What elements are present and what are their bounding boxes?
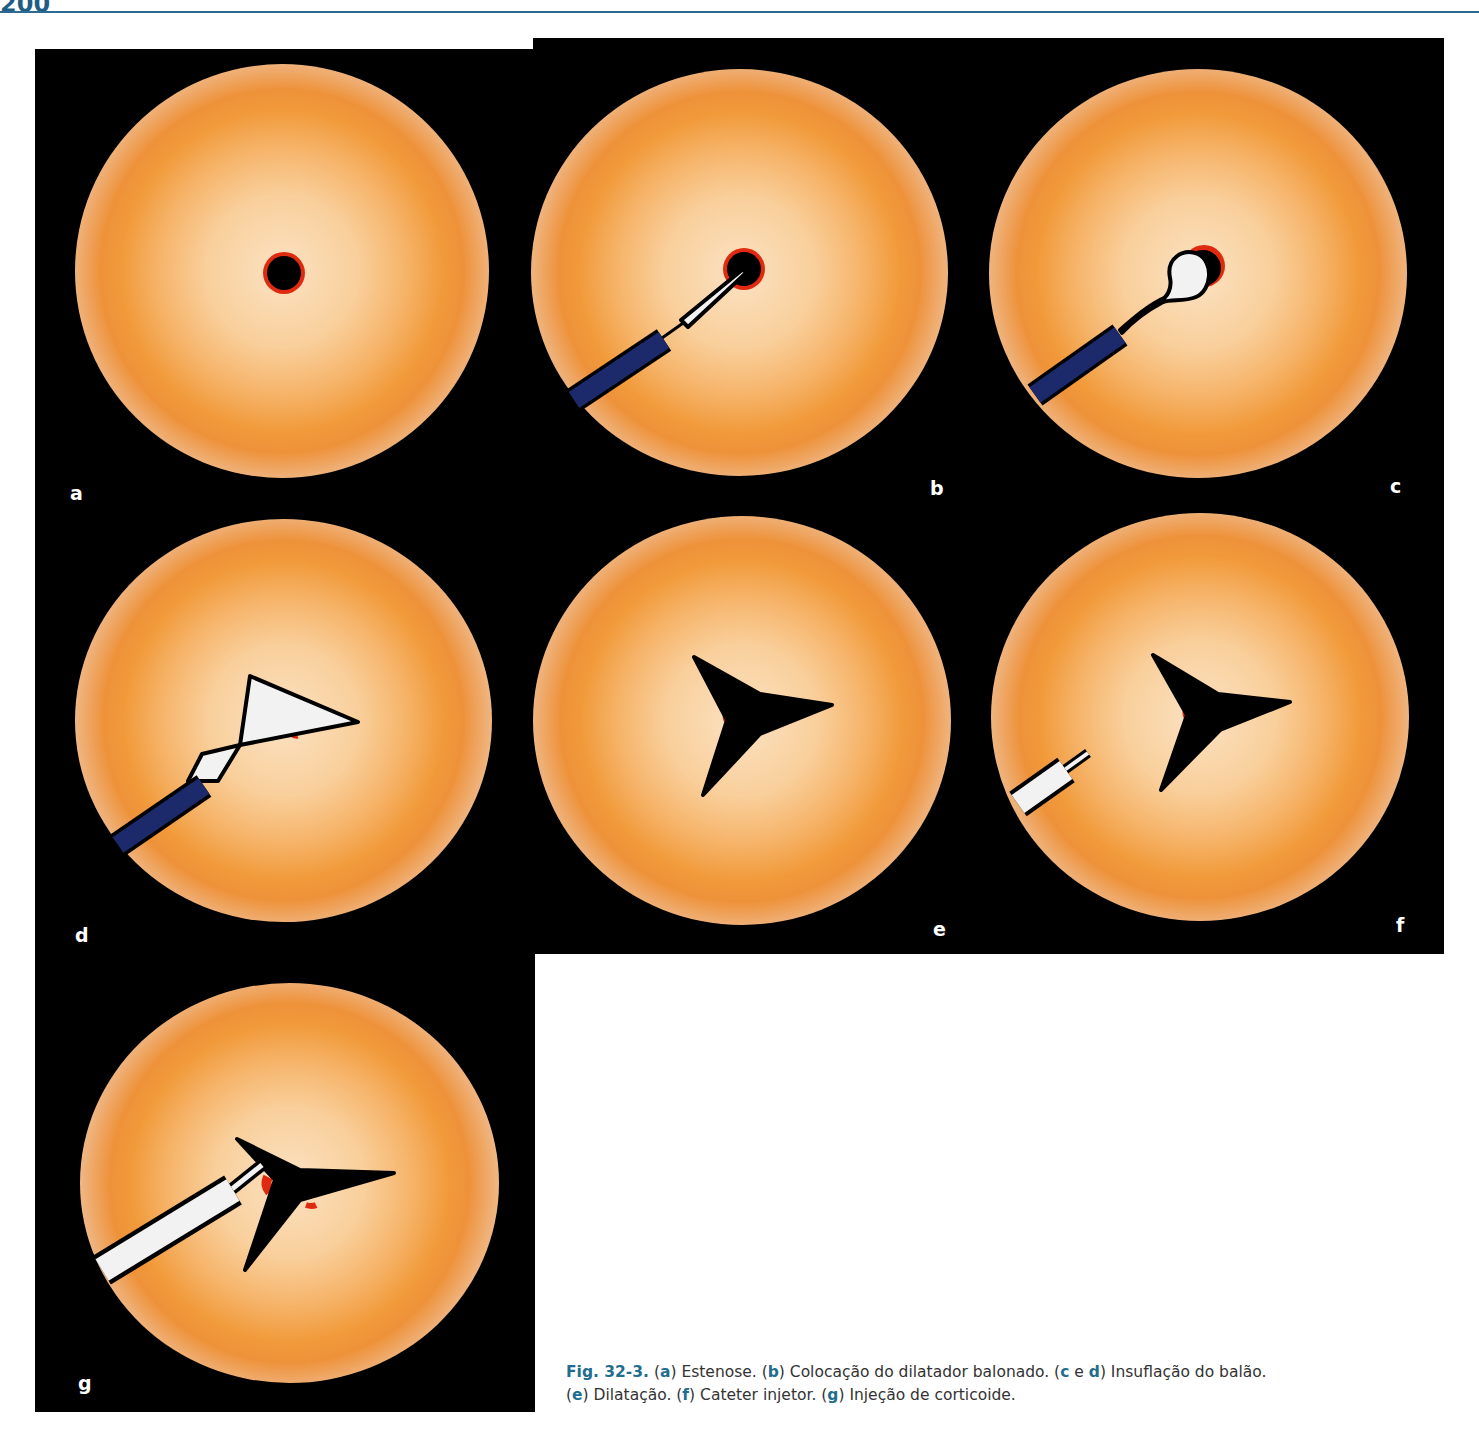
- caption-paren: ): [583, 1386, 594, 1404]
- caption-letter-c: c: [1060, 1363, 1069, 1381]
- caption-letter-d: d: [1089, 1363, 1100, 1381]
- figure: a b c: [0, 0, 1479, 1451]
- caption-conjunction: e: [1069, 1363, 1088, 1381]
- caption-paren: ): [1100, 1363, 1111, 1381]
- corticoid-injection-icon: [0, 0, 1479, 1451]
- caption-paren: (: [816, 1386, 827, 1404]
- caption-paren: (: [1049, 1363, 1060, 1381]
- caption-paren: ): [838, 1386, 849, 1404]
- caption-paren: (: [649, 1363, 660, 1381]
- caption-letter-g: g: [827, 1386, 838, 1404]
- caption-paren: ): [670, 1363, 681, 1381]
- caption-letter-b: b: [768, 1363, 779, 1381]
- caption-text-cd: Insuflação do balão.: [1111, 1363, 1267, 1381]
- caption-paren: ): [689, 1386, 700, 1404]
- panel-label-g: g: [78, 1372, 92, 1394]
- caption-text-e: Dilatação.: [594, 1386, 672, 1404]
- caption-text-g: Injeção de corticoide.: [849, 1386, 1015, 1404]
- caption-letter-e: e: [572, 1386, 583, 1404]
- caption-text-b: Colocação do dilatador balonado.: [790, 1363, 1049, 1381]
- caption-text-a: Estenose.: [681, 1363, 756, 1381]
- figure-caption: Fig. 32-3. (a) Estenose. (b) Colocação d…: [566, 1361, 1446, 1407]
- caption-paren: (: [671, 1386, 682, 1404]
- caption-text-f: Cateter injetor.: [700, 1386, 816, 1404]
- caption-letter-a: a: [660, 1363, 670, 1381]
- figure-number: Fig. 32-3.: [566, 1363, 649, 1381]
- caption-paren: ): [779, 1363, 790, 1381]
- caption-paren: (: [757, 1363, 768, 1381]
